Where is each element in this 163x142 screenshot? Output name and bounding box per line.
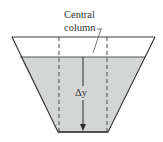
delta-y-label: Δy <box>75 88 87 99</box>
central-column-label-line2: column <box>64 23 96 34</box>
central-column-label-line1: Central <box>64 10 95 21</box>
diagram-canvas: Central column Δy <box>0 0 163 142</box>
